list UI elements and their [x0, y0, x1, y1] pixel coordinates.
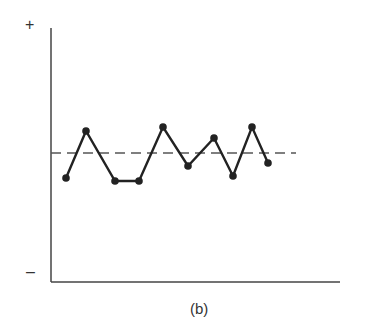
- data-point: [62, 174, 70, 182]
- data-point: [111, 177, 119, 185]
- data-point: [248, 123, 256, 131]
- data-point: [264, 159, 272, 167]
- figure-caption: (b): [190, 300, 208, 317]
- data-point: [82, 127, 90, 135]
- data-point: [210, 134, 218, 142]
- y-axis-bottom-label: –: [26, 263, 35, 281]
- y-axis-top-label: +: [25, 16, 34, 34]
- data-point: [184, 162, 192, 170]
- data-point: [159, 123, 167, 131]
- chart-canvas: [0, 0, 368, 330]
- data-line: [66, 127, 268, 181]
- data-point: [135, 177, 143, 185]
- data-point: [229, 172, 237, 180]
